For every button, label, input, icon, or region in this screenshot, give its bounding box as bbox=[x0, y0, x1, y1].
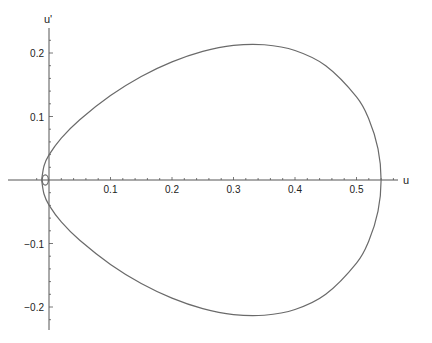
y-tick-label: 0.1 bbox=[30, 112, 44, 123]
x-tick-label: 0.5 bbox=[350, 184, 364, 195]
y-tick-label: −0.2 bbox=[24, 302, 44, 313]
y-tick-label: −0.1 bbox=[24, 239, 44, 250]
x-axis-label: u bbox=[403, 174, 409, 186]
y-tick-label: 0.2 bbox=[30, 48, 44, 59]
y-axis-label: u' bbox=[44, 13, 52, 25]
x-tick-label: 0.2 bbox=[165, 184, 179, 195]
x-tick-label: 0.1 bbox=[104, 184, 118, 195]
x-tick-label: 0.4 bbox=[288, 184, 302, 195]
axes: u u' bbox=[8, 13, 409, 330]
x-tick-label: 0.3 bbox=[227, 184, 241, 195]
phase-plot: u u' 0.10.20.30.40.50.20.1−0.1−0.2 bbox=[0, 0, 432, 343]
